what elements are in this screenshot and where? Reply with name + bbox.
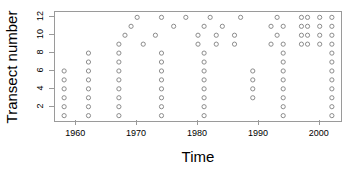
data-point xyxy=(299,24,303,28)
data-point xyxy=(117,96,121,100)
data-point xyxy=(62,114,66,118)
data-point xyxy=(318,24,322,28)
data-point xyxy=(86,87,90,91)
data-point xyxy=(330,24,334,28)
data-point xyxy=(202,51,206,55)
data-point xyxy=(239,15,243,19)
data-point xyxy=(202,69,206,73)
data-point xyxy=(117,69,121,73)
data-point xyxy=(281,24,285,28)
x-tick-mark xyxy=(75,120,76,125)
data-point xyxy=(299,33,303,37)
x-tick-mark xyxy=(258,120,259,125)
data-point xyxy=(196,33,200,37)
data-point xyxy=(86,96,90,100)
data-point xyxy=(129,24,133,28)
data-point xyxy=(305,24,309,28)
data-point xyxy=(159,78,163,82)
data-point xyxy=(202,24,206,28)
data-point xyxy=(251,78,255,82)
x-tick-mark xyxy=(136,120,137,125)
x-tick-label: 1970 xyxy=(126,128,146,138)
data-point xyxy=(117,87,121,91)
data-point xyxy=(318,15,322,19)
data-point xyxy=(330,60,334,64)
data-point xyxy=(330,105,334,109)
data-point xyxy=(159,51,163,55)
y-tick-label: 8 xyxy=(35,50,45,55)
data-point xyxy=(202,87,206,91)
data-point xyxy=(208,15,212,19)
data-point xyxy=(281,42,285,46)
data-point xyxy=(159,69,163,73)
data-point xyxy=(159,15,163,19)
data-point xyxy=(184,15,188,19)
data-point xyxy=(281,69,285,73)
data-point xyxy=(117,114,121,118)
data-point xyxy=(202,105,206,109)
data-point xyxy=(123,33,127,37)
data-point xyxy=(135,15,139,19)
data-point xyxy=(330,15,334,19)
data-point xyxy=(86,105,90,109)
data-point xyxy=(305,42,309,46)
x-tick-label: 1990 xyxy=(248,128,268,138)
data-point xyxy=(86,51,90,55)
data-point xyxy=(159,60,163,64)
data-point xyxy=(318,42,322,46)
data-point xyxy=(159,96,163,100)
y-tick-label: 10 xyxy=(35,29,45,39)
data-point xyxy=(330,42,334,46)
data-point xyxy=(202,78,206,82)
x-axis-title: Time xyxy=(182,148,215,165)
y-axis-title: Transect number xyxy=(3,11,20,124)
data-point xyxy=(281,51,285,55)
data-point xyxy=(251,69,255,73)
data-point xyxy=(196,42,200,46)
data-point xyxy=(117,42,121,46)
data-point xyxy=(62,96,66,100)
data-point xyxy=(330,33,334,37)
y-tick-mark xyxy=(49,106,54,107)
data-point xyxy=(281,78,285,82)
data-point xyxy=(62,69,66,73)
data-point xyxy=(202,114,206,118)
data-point xyxy=(330,114,334,118)
data-point xyxy=(62,105,66,109)
y-tick-mark xyxy=(49,34,54,35)
data-point xyxy=(281,96,285,100)
x-tick-label: 1980 xyxy=(187,128,207,138)
y-tick-mark xyxy=(49,16,54,17)
data-point xyxy=(159,87,163,91)
y-tick-mark xyxy=(49,52,54,53)
data-point xyxy=(330,87,334,91)
data-point xyxy=(281,87,285,91)
scatter-plot-figure: 24681012 19601970198019902000 Time Trans… xyxy=(0,0,353,173)
data-point xyxy=(159,105,163,109)
data-point xyxy=(141,42,145,46)
data-point xyxy=(232,42,236,46)
data-point xyxy=(318,33,322,37)
data-point xyxy=(117,78,121,82)
x-tick-mark xyxy=(319,120,320,125)
y-tick-label: 2 xyxy=(35,103,45,108)
data-point xyxy=(202,60,206,64)
data-point xyxy=(153,33,157,37)
data-point xyxy=(281,60,285,64)
data-point xyxy=(86,114,90,118)
data-point xyxy=(62,87,66,91)
data-point xyxy=(86,60,90,64)
data-point xyxy=(251,96,255,100)
data-point xyxy=(202,96,206,100)
x-tick-mark xyxy=(197,120,198,125)
data-point xyxy=(214,42,218,46)
y-tick-label: 12 xyxy=(35,11,45,21)
data-point xyxy=(117,105,121,109)
plot-area xyxy=(54,11,342,122)
x-tick-label: 2000 xyxy=(309,128,329,138)
data-point xyxy=(269,24,273,28)
data-point xyxy=(281,114,285,118)
y-tick-label: 6 xyxy=(35,67,45,72)
y-tick-mark xyxy=(49,70,54,71)
data-point xyxy=(86,69,90,73)
